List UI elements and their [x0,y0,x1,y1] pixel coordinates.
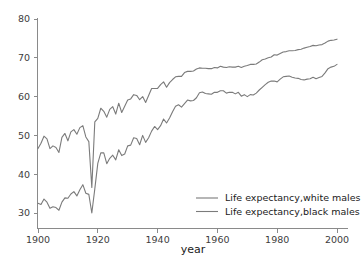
x-tick-label: 1900 [26,234,50,245]
series-line-black-males [38,64,337,213]
x-tick-label: 1940 [146,234,170,245]
y-tick-label: 40 [18,169,30,180]
series-line-white-males [38,39,337,187]
legend-label-black-males: Life expectancy,black males [225,206,360,217]
series-group [38,39,337,213]
line-chart: 304050607080 190019201940196019802000 ye… [0,0,364,268]
chart-canvas: 304050607080 190019201940196019802000 ye… [0,0,364,268]
y-axis-ticks: 304050607080 [18,13,38,218]
chart-legend: Life expectancy,white malesLife expectan… [196,192,361,217]
y-tick-label: 80 [18,13,30,24]
x-tick-label: 2000 [325,234,349,245]
y-tick-label: 30 [18,207,30,218]
legend-label-white-males: Life expectancy,white males [225,192,361,203]
x-tick-label: 1960 [205,234,229,245]
y-tick-label: 60 [18,91,30,102]
x-tick-label: 1920 [86,234,110,245]
x-tick-label: 1980 [265,234,289,245]
x-axis-title: year [181,243,206,256]
y-tick-label: 70 [18,52,30,63]
y-tick-label: 50 [18,130,30,141]
